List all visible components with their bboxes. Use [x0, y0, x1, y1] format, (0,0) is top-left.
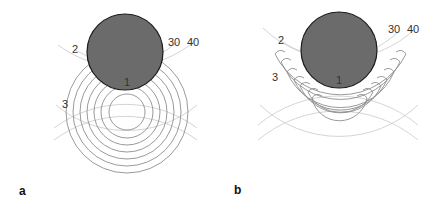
- panel-b-label-1: 1: [336, 74, 342, 86]
- panel-b-label-2: 2: [278, 34, 284, 46]
- panel-a-label-2: 2: [72, 43, 78, 55]
- panel-a-label-30: 30: [168, 36, 180, 48]
- panel-a-label-40: 40: [187, 36, 199, 48]
- panel-b-label-3: 3: [272, 71, 278, 83]
- panel-b-title: b: [234, 183, 241, 197]
- panel-b-label-30: 30: [388, 23, 400, 35]
- panel-a-label-3: 3: [62, 98, 68, 110]
- panel-a-label-1: 1: [124, 76, 130, 88]
- panel-b: 2 3 1 30 40 b: [234, 12, 419, 197]
- panel-b-label-40: 40: [407, 23, 419, 35]
- panel-a-title: a: [19, 184, 26, 198]
- panel-a: 2 3 1 30 40 a: [19, 14, 199, 198]
- figure-canvas: 2 3 1 30 40 a 2 3 1 30 40 b: [0, 0, 441, 209]
